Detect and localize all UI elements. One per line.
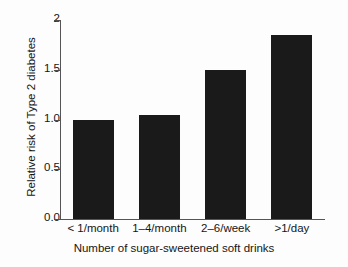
bar [139,115,180,219]
bar [73,120,114,220]
bar [271,35,312,219]
y-axis-tick-label: 1.0 [36,112,60,124]
x-axis-tick-labels: < 1/month1–4/month2–6/week>1/day [60,222,325,238]
x-axis-tick-label: >1/day [252,222,332,234]
x-axis-line [60,219,325,220]
y-axis-tick-label: 0.5 [36,161,60,173]
x-axis-title: Number of sugar-sweetened soft drinks [0,242,348,254]
plot-area [60,20,325,219]
bar-chart-figure: Relative risk of Type 2 diabetes 0.00.51… [0,0,348,267]
bar [205,70,246,219]
y-axis-tick-label: 2 [36,12,60,24]
y-axis-tick-label: 1.5 [36,62,60,74]
